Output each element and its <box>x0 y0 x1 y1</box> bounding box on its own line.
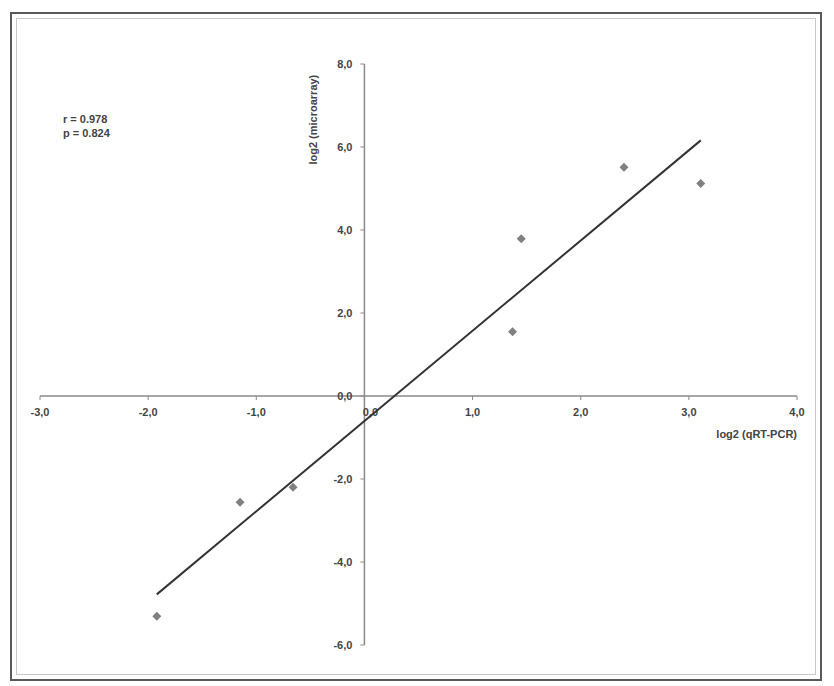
y-tick-label: 8,0 <box>337 58 352 70</box>
y-tick-label: 0,0 <box>337 390 352 402</box>
data-point-diamond <box>517 234 526 243</box>
trendline <box>157 140 701 594</box>
data-point-diamond <box>236 498 245 507</box>
y-tick-label: 2,0 <box>337 307 352 319</box>
scatter-plot: -3,0-2,0-1,00,01,02,03,04,08,06,04,02,00… <box>0 0 834 686</box>
data-point-diamond <box>696 179 705 188</box>
y-tick-label: -4,0 <box>333 556 352 568</box>
x-tick-label: -3,0 <box>31 406 50 418</box>
x-tick-label: -2,0 <box>139 406 158 418</box>
x-tick-label: 3,0 <box>681 406 696 418</box>
data-point-diamond <box>508 327 517 336</box>
x-tick-label: -1,0 <box>247 406 266 418</box>
y-tick-label: 6,0 <box>337 141 352 153</box>
y-tick-label: -2,0 <box>333 473 352 485</box>
y-axis-title: log2 (microarray) <box>307 74 319 164</box>
data-point-diamond <box>619 163 628 172</box>
x-tick-label: 4,0 <box>789 406 804 418</box>
y-tick-label: -6,0 <box>333 639 352 651</box>
x-tick-label: 2,0 <box>573 406 588 418</box>
x-tick-label: 1,0 <box>465 406 480 418</box>
x-axis-title: log2 (qRT-PCR) <box>716 428 797 440</box>
y-tick-label: 4,0 <box>337 224 352 236</box>
data-point-diamond <box>152 612 161 621</box>
